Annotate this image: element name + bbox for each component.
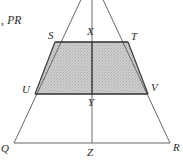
- vertex-label-t: T: [131, 31, 137, 42]
- vertex-label-r: R: [173, 142, 180, 153]
- vertex-label-z: Z: [87, 147, 93, 158]
- vertex-label-y: Y: [88, 97, 94, 108]
- vertex-label-u: U: [22, 84, 30, 95]
- geometry-figure: , PR S X T U Y V Q Z R: [0, 0, 183, 163]
- vertex-label-x: X: [87, 26, 94, 37]
- vertex-label-v: V: [151, 82, 158, 93]
- vertex-label-q: Q: [1, 143, 9, 154]
- vertex-label-s: S: [48, 30, 54, 41]
- caption-fragment-pr: , PR: [1, 14, 22, 26]
